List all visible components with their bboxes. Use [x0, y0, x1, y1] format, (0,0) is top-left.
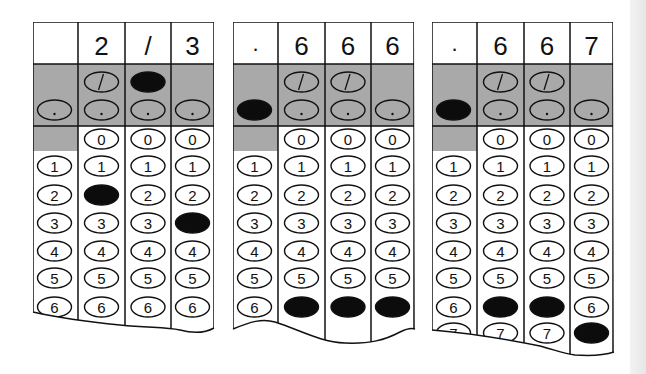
svg-text:5: 5 [344, 270, 352, 287]
bubble-col3-4[interactable]: 4 [530, 241, 564, 261]
bubble-col1-3[interactable]: 3 [238, 213, 272, 233]
bubble-col3-1[interactable]: 1 [131, 156, 165, 176]
bubble-col1-1[interactable]: 1 [38, 156, 72, 176]
bubble-col4-6[interactable] [376, 297, 410, 317]
bubble-col1-decimal[interactable] [437, 100, 471, 120]
bubble-col1-6[interactable]: 6 [437, 297, 471, 317]
bubble-col4-3[interactable] [176, 213, 210, 233]
svg-text:5: 5 [144, 270, 152, 287]
bubble-col1-4[interactable]: 4 [238, 241, 272, 261]
bubble-col3-0[interactable]: 0 [331, 129, 365, 149]
bubble-col4-1[interactable]: 1 [376, 156, 410, 176]
bubble-col3-6[interactable]: 6 [131, 297, 165, 317]
bubble-col1-4[interactable]: 4 [437, 241, 471, 261]
bubble-col4-6[interactable]: 6 [575, 297, 609, 317]
bubble-col2-1[interactable]: 1 [285, 156, 319, 176]
svg-text:4: 4 [250, 243, 258, 260]
bubble-col4-1[interactable]: 1 [575, 156, 609, 176]
bubble-col2-5[interactable]: 5 [484, 268, 518, 288]
bubble-col4-0[interactable]: 0 [176, 129, 210, 149]
bubble-col4-3[interactable]: 3 [575, 213, 609, 233]
bubble-col3-2[interactable]: 2 [331, 185, 365, 205]
bubble-col1-4[interactable]: 4 [38, 241, 72, 261]
symbol-band [33, 64, 214, 126]
bubble-col2-4[interactable]: 4 [285, 241, 319, 261]
bubble-col1-1[interactable]: 1 [238, 156, 272, 176]
bubble-col4-4[interactable]: 4 [176, 241, 210, 261]
bubble-col1-6[interactable]: 6 [238, 297, 272, 317]
bubble-col4-5[interactable]: 5 [176, 268, 210, 288]
bubble-col4-5[interactable]: 5 [376, 268, 410, 288]
bubble-col3-6[interactable] [530, 297, 564, 317]
bubble-col2-3[interactable]: 3 [85, 213, 119, 233]
bubble-col4-2[interactable]: 2 [376, 185, 410, 205]
bubble-col1-2[interactable]: 2 [238, 185, 272, 205]
bubble-col4-6[interactable]: 6 [176, 297, 210, 317]
bubble-col3-3[interactable]: 3 [530, 213, 564, 233]
bubble-col2-2[interactable]: 2 [285, 185, 319, 205]
bubble-col3-5[interactable]: 5 [331, 268, 365, 288]
bubble-col3-7[interactable]: 7 [530, 323, 564, 343]
bubble-col2-1[interactable]: 1 [85, 156, 119, 176]
svg-text:1: 1 [50, 158, 58, 175]
bubble-col4-0[interactable]: 0 [376, 129, 410, 149]
bubble-col2-7[interactable]: 7 [484, 323, 518, 343]
bubble-col4-4[interactable]: 4 [376, 241, 410, 261]
bubble-col3-6[interactable] [331, 297, 365, 317]
svg-text:3: 3 [144, 215, 152, 232]
bubble-col4-4[interactable]: 4 [575, 241, 609, 261]
bubble-col2-0[interactable]: 0 [285, 129, 319, 149]
bubble-col3-2[interactable]: 2 [530, 185, 564, 205]
bubble-col3-4[interactable]: 4 [131, 241, 165, 261]
bubble-col3-slash[interactable] [131, 72, 165, 92]
bubble-col1-5[interactable]: 5 [238, 268, 272, 288]
bubble-col2-5[interactable]: 5 [285, 268, 319, 288]
bubble-col2-3[interactable]: 3 [285, 213, 319, 233]
bubble-col2-6[interactable] [484, 297, 518, 317]
bubble-col3-3[interactable]: 3 [331, 213, 365, 233]
bubble-col3-1[interactable]: 1 [530, 156, 564, 176]
bubble-col3-1[interactable]: 1 [331, 156, 365, 176]
svg-text:1: 1 [344, 158, 352, 175]
bubble-col2-4[interactable]: 4 [85, 241, 119, 261]
answer-grid-grid-2-3: 2/31234560134560123456012456 [33, 22, 214, 360]
svg-text:3: 3 [388, 215, 396, 232]
bubble-col1-2[interactable]: 2 [437, 185, 471, 205]
bubble-col4-1[interactable]: 1 [176, 156, 210, 176]
svg-text:2: 2 [250, 187, 258, 204]
bubble-col1-5[interactable]: 5 [437, 268, 471, 288]
bubble-col4-3[interactable]: 3 [376, 213, 410, 233]
svg-text:3: 3 [543, 215, 551, 232]
bubble-col2-5[interactable]: 5 [85, 268, 119, 288]
bubble-col3-5[interactable]: 5 [530, 268, 564, 288]
bubble-col1-decimal[interactable] [238, 100, 272, 120]
svg-text:3: 3 [250, 215, 258, 232]
bubble-col1-3[interactable]: 3 [38, 213, 72, 233]
bubble-col4-7[interactable] [575, 323, 609, 343]
bubble-col3-5[interactable]: 5 [131, 268, 165, 288]
bubble-col2-3[interactable]: 3 [484, 213, 518, 233]
svg-text:6: 6 [449, 299, 457, 316]
bubble-col3-0[interactable]: 0 [530, 129, 564, 149]
bubble-col4-5[interactable]: 5 [575, 268, 609, 288]
header-cell-2: / [144, 31, 152, 61]
bubble-col2-6[interactable] [285, 297, 319, 317]
bubble-col3-2[interactable]: 2 [131, 185, 165, 205]
bubble-col2-0[interactable]: 0 [85, 129, 119, 149]
bubble-col2-6[interactable]: 6 [85, 297, 119, 317]
bubble-col2-2[interactable] [85, 185, 119, 205]
bubble-col1-2[interactable]: 2 [38, 185, 72, 205]
bubble-col1-3[interactable]: 3 [437, 213, 471, 233]
bubble-col3-3[interactable]: 3 [131, 213, 165, 233]
bubble-col3-0[interactable]: 0 [131, 129, 165, 149]
bubble-col3-4[interactable]: 4 [331, 241, 365, 261]
bubble-col4-2[interactable]: 2 [176, 185, 210, 205]
bubble-col1-1[interactable]: 1 [437, 156, 471, 176]
bubble-col2-4[interactable]: 4 [484, 241, 518, 261]
bubble-col1-5[interactable]: 5 [38, 268, 72, 288]
bubble-col4-2[interactable]: 2 [575, 185, 609, 205]
bubble-col2-0[interactable]: 0 [484, 129, 518, 149]
bubble-col2-2[interactable]: 2 [484, 185, 518, 205]
bubble-col4-0[interactable]: 0 [575, 129, 609, 149]
bubble-col2-1[interactable]: 1 [484, 156, 518, 176]
